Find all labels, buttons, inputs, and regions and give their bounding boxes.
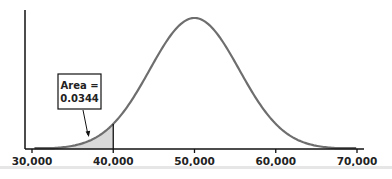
arrow-head-icon (86, 131, 91, 137)
bottom-divider (0, 166, 392, 169)
annotation-box: Area = 0.0344 (58, 74, 101, 137)
annotation-line1: Area = (60, 80, 98, 91)
normal-curve-chart: 30,00040,00050,00060,00070,000 Area = 0.… (0, 0, 392, 179)
annotation-line2: 0.0344 (60, 93, 99, 104)
x-axis-ticks: 30,00040,00050,00060,00070,000 (12, 149, 378, 167)
